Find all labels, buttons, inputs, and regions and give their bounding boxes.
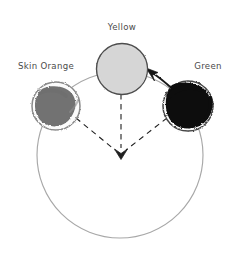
diagram-canvas: Yellow Skin Orange Green — [0, 0, 236, 255]
dash-green-to-center — [126, 118, 167, 150]
dashed-connectors — [76, 94, 167, 150]
swatch-skin-orange[interactable] — [32, 82, 80, 130]
label-green: Green — [194, 61, 222, 71]
swatch-yellow[interactable] — [97, 44, 148, 95]
label-skin-orange: Skin Orange — [18, 61, 74, 71]
swatch-yellow-fill — [99, 47, 147, 92]
center-convergence-arrowhead — [115, 149, 128, 160]
dash-skin-orange-to-center — [76, 118, 115, 150]
swatch-green[interactable] — [163, 81, 213, 131]
color-mixing-diagram: Yellow Skin Orange Green — [0, 0, 236, 255]
label-yellow: Yellow — [107, 22, 136, 32]
